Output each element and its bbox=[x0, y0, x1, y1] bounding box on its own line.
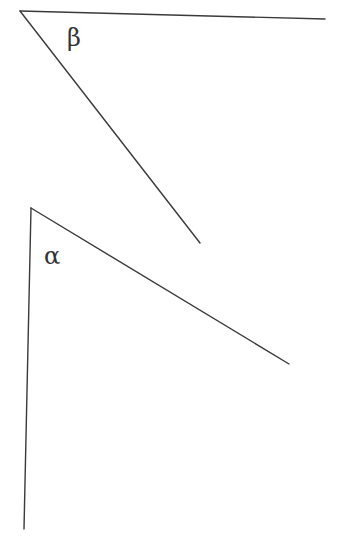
alpha-ray-vertical bbox=[24, 208, 31, 529]
angle-diagram: β α bbox=[0, 0, 337, 536]
beta-ray-diagonal bbox=[20, 11, 200, 243]
beta-ray-horizontal bbox=[20, 11, 325, 19]
angle-beta: β bbox=[20, 11, 325, 243]
beta-label: β bbox=[67, 24, 81, 52]
alpha-label: α bbox=[44, 242, 60, 270]
angle-alpha: α bbox=[24, 208, 289, 529]
alpha-ray-diagonal bbox=[31, 208, 289, 364]
